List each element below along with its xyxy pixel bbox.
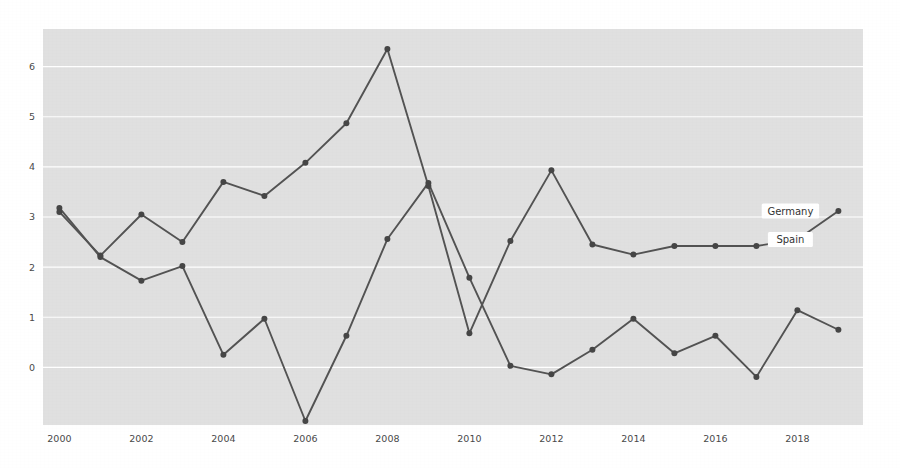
- marker-spain-2007: [343, 120, 349, 126]
- x-tick-label-2004: 2004: [211, 433, 235, 444]
- y-tick-label-1: 1: [29, 312, 35, 323]
- x-tick-label-2016: 2016: [703, 433, 727, 444]
- marker-germany-2019: [835, 327, 841, 333]
- y-tick-label-4: 4: [29, 161, 35, 172]
- y-tick-label-2: 2: [29, 262, 35, 273]
- marker-spain-2005: [261, 193, 267, 199]
- marker-germany-2015: [671, 350, 677, 356]
- marker-spain-2013: [589, 242, 595, 248]
- x-tick-label-2000: 2000: [47, 433, 71, 444]
- marker-spain-2002: [138, 211, 144, 217]
- marker-germany-2014: [630, 316, 636, 322]
- marker-germany-2017: [753, 374, 759, 380]
- x-tick-label-2010: 2010: [457, 433, 481, 444]
- marker-germany-2005: [261, 316, 267, 322]
- x-tick-label-2012: 2012: [539, 433, 563, 444]
- x-tick-label-2014: 2014: [621, 433, 645, 444]
- marker-germany-2004: [220, 352, 226, 358]
- marker-spain-2010: [466, 330, 472, 336]
- y-tick-label-6: 6: [29, 61, 35, 72]
- marker-germany-2018: [794, 307, 800, 313]
- marker-spain-2016: [712, 243, 718, 249]
- marker-germany-2010: [466, 275, 472, 281]
- marker-germany-2011: [507, 363, 513, 369]
- end-label-text-spain: Spain: [776, 234, 804, 245]
- marker-germany-2013: [589, 347, 595, 353]
- marker-spain-2011: [507, 238, 513, 244]
- marker-spain-2003: [179, 239, 185, 245]
- marker-germany-2002: [138, 278, 144, 284]
- marker-spain-2006: [302, 160, 308, 166]
- y-tick-label-3: 3: [29, 211, 35, 222]
- y-tick-label-0: 0: [29, 362, 35, 373]
- x-tick-label-2018: 2018: [785, 433, 809, 444]
- marker-germany-2016: [712, 333, 718, 339]
- marker-spain-2012: [548, 167, 554, 173]
- marker-germany-2007: [343, 333, 349, 339]
- marker-spain-2015: [671, 243, 677, 249]
- x-tick-label-2008: 2008: [375, 433, 399, 444]
- plot-area-background: [43, 29, 863, 425]
- chart-figure: 0123456 20002002200420062008201020122014…: [0, 0, 900, 468]
- marker-germany-2006: [302, 418, 308, 424]
- marker-germany-2003: [179, 263, 185, 269]
- marker-spain-2019: [835, 208, 841, 214]
- x-tick-label-2006: 2006: [293, 433, 317, 444]
- marker-spain-2001: [97, 253, 103, 259]
- marker-spain-2008: [384, 46, 390, 52]
- marker-spain-2014: [630, 252, 636, 258]
- line-chart-canvas[interactable]: 0123456 20002002200420062008201020122014…: [0, 0, 900, 468]
- x-tick-label-2002: 2002: [129, 433, 153, 444]
- marker-spain-2009: [425, 183, 431, 189]
- end-label-text-germany: Germany: [767, 206, 813, 217]
- y-tick-label-5: 5: [29, 111, 35, 122]
- marker-spain-2000: [56, 209, 62, 215]
- marker-germany-2008: [384, 236, 390, 242]
- marker-germany-2012: [548, 371, 554, 377]
- marker-spain-2004: [220, 179, 226, 185]
- marker-spain-2017: [753, 243, 759, 249]
